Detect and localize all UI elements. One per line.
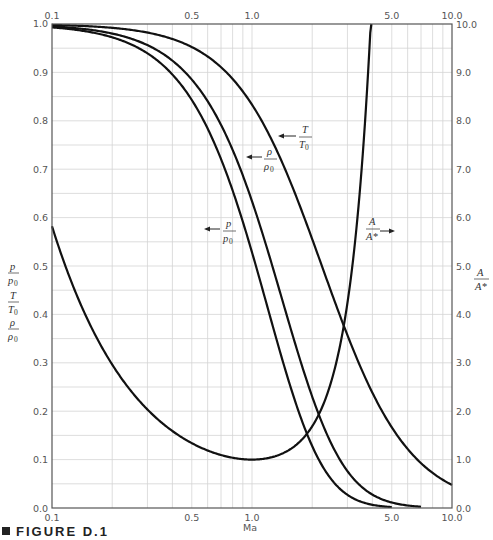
label-T-T0: T T 0 bbox=[278, 124, 312, 152]
chart: 0.10.51.05.010.00.10.51.05.010.00.00.10.… bbox=[0, 0, 493, 540]
svg-text:2.0: 2.0 bbox=[456, 406, 471, 417]
svg-text:5.0: 5.0 bbox=[384, 512, 399, 523]
svg-text:6.0: 6.0 bbox=[456, 212, 471, 223]
svg-text:0.1: 0.1 bbox=[33, 454, 48, 465]
left-axis-label: p p 0 T T 0 ρ ρ 0 bbox=[7, 261, 19, 344]
svg-text:ρ: ρ bbox=[9, 317, 15, 328]
svg-text:0.9: 0.9 bbox=[33, 67, 48, 78]
svg-text:0.7: 0.7 bbox=[33, 164, 48, 175]
svg-text:0.2: 0.2 bbox=[33, 406, 48, 417]
svg-text:0: 0 bbox=[305, 143, 309, 152]
svg-text:p: p bbox=[7, 275, 13, 286]
svg-text:1.0: 1.0 bbox=[456, 454, 471, 465]
svg-text:0.5: 0.5 bbox=[184, 10, 199, 21]
svg-text:0.6: 0.6 bbox=[33, 212, 48, 223]
svg-text:5.0: 5.0 bbox=[384, 10, 399, 21]
svg-text:0.8: 0.8 bbox=[33, 115, 48, 126]
svg-text:0.3: 0.3 bbox=[33, 357, 48, 368]
svg-text:T: T bbox=[302, 124, 309, 135]
x-axis-label: Ma bbox=[243, 522, 257, 533]
svg-text:ρ: ρ bbox=[263, 161, 269, 172]
svg-text:A: A bbox=[368, 216, 376, 227]
svg-text:A*: A* bbox=[365, 231, 378, 242]
svg-text:ρ: ρ bbox=[266, 146, 272, 157]
svg-text:8.0: 8.0 bbox=[456, 115, 471, 126]
svg-text:10.0: 10.0 bbox=[441, 512, 462, 523]
svg-text:A: A bbox=[476, 267, 484, 278]
svg-text:1.0: 1.0 bbox=[244, 10, 259, 21]
svg-text:5.0: 5.0 bbox=[456, 261, 471, 272]
svg-text:ρ: ρ bbox=[7, 331, 13, 342]
svg-text:T: T bbox=[10, 290, 17, 301]
svg-text:4.0: 4.0 bbox=[456, 309, 471, 320]
label-A-Astar: A A* bbox=[365, 216, 395, 242]
svg-text:p: p bbox=[222, 233, 228, 244]
right-axis-label: A A* bbox=[474, 267, 489, 292]
svg-text:0.5: 0.5 bbox=[184, 512, 199, 523]
svg-text:0.1: 0.1 bbox=[44, 512, 59, 523]
grid bbox=[52, 24, 452, 508]
svg-text:0.0: 0.0 bbox=[456, 503, 471, 514]
svg-text:p: p bbox=[225, 218, 231, 229]
svg-text:0.4: 0.4 bbox=[33, 309, 48, 320]
svg-text:0.5: 0.5 bbox=[33, 261, 48, 272]
svg-text:0: 0 bbox=[14, 279, 18, 288]
svg-text:0: 0 bbox=[14, 335, 18, 344]
svg-text:7.0: 7.0 bbox=[456, 164, 471, 175]
svg-text:10.0: 10.0 bbox=[456, 19, 477, 30]
svg-text:0: 0 bbox=[229, 237, 233, 246]
svg-text:0.0: 0.0 bbox=[33, 503, 48, 514]
figure-caption: FIGURE D.1 bbox=[2, 524, 109, 539]
svg-text:p: p bbox=[9, 261, 15, 272]
svg-text:A*: A* bbox=[474, 281, 487, 292]
svg-text:0: 0 bbox=[14, 308, 18, 317]
svg-text:3.0: 3.0 bbox=[456, 357, 471, 368]
svg-text:1.0: 1.0 bbox=[33, 18, 48, 29]
svg-text:0: 0 bbox=[270, 165, 274, 174]
svg-text:9.0: 9.0 bbox=[456, 67, 471, 78]
label-rho-rho0: ρ ρ 0 bbox=[246, 146, 277, 174]
